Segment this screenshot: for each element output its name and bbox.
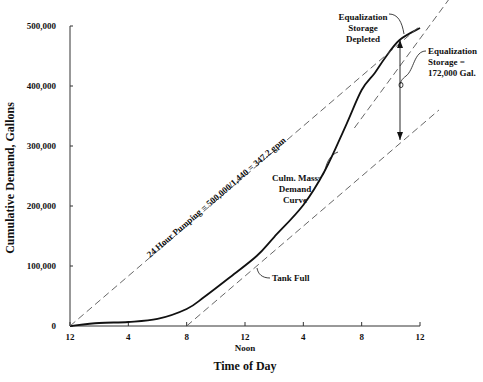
y-tick-label: 400,000 bbox=[27, 81, 57, 91]
storage-label-2: Storage = bbox=[428, 57, 465, 67]
y-tick-label: 0 bbox=[52, 321, 57, 331]
mass-diagram-chart: 12481248120100,000200,000300,000400,0005… bbox=[0, 0, 483, 382]
culm-label-3: Curve bbox=[283, 195, 307, 205]
annotations: 24 Hour Pumping = 500,000/1,440 = 347.2 … bbox=[3, 12, 477, 373]
x-tick-label: 8 bbox=[184, 332, 189, 342]
depleted-label-3: Depleted bbox=[346, 34, 380, 44]
y-tick-label: 300,000 bbox=[27, 141, 57, 151]
x-tick-label: 4 bbox=[301, 332, 306, 342]
x-tick-label: 4 bbox=[126, 332, 131, 342]
dashed-reference-line bbox=[187, 110, 439, 326]
storage-leader-line bbox=[401, 51, 426, 84]
y-tick-label: 200,000 bbox=[27, 201, 57, 211]
depleted-label-1: Equalization bbox=[338, 12, 387, 22]
x-axis-title: Time of Day bbox=[213, 359, 276, 373]
culm-label-1: Culm. Mass bbox=[272, 173, 318, 183]
y-tick-label: 100,000 bbox=[27, 261, 57, 271]
x-tick-label: 8 bbox=[359, 332, 364, 342]
depleted-label-2: Storage bbox=[348, 23, 378, 33]
x-tick-label: 12 bbox=[66, 332, 76, 342]
storage-label-3: 172,000 Gal. bbox=[428, 68, 476, 78]
culm-label-2: Demand bbox=[279, 184, 312, 194]
y-axis-title: Cumulative Demand, Gallons bbox=[3, 102, 17, 254]
x-tick-label: 12 bbox=[416, 332, 426, 342]
noon-label: Noon bbox=[235, 343, 256, 353]
tank-full-leader-line bbox=[257, 268, 270, 278]
storage-label-1: Equalization bbox=[428, 46, 477, 56]
depleted-leader-line bbox=[389, 14, 404, 34]
y-tick-label: 500,000 bbox=[27, 21, 57, 31]
tank-full-label: Tank Full bbox=[272, 273, 310, 283]
pumping-rate-label: 24 Hour Pumping = 500,000/1,440 = 347.2 … bbox=[145, 135, 288, 260]
arrowhead-down-icon bbox=[397, 132, 403, 140]
x-tick-label: 12 bbox=[241, 332, 251, 342]
